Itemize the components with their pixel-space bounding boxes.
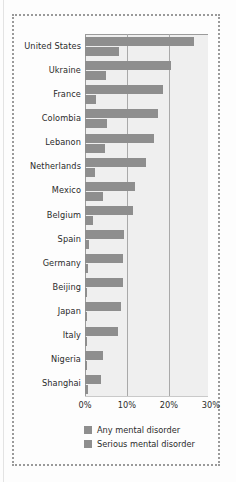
bar-any-mental-disorder bbox=[85, 230, 124, 239]
category-axis-labels: United StatesUkraineFranceColombiaLebano… bbox=[0, 34, 81, 396]
bar-any-mental-disorder bbox=[85, 134, 154, 143]
category-label: Japan bbox=[1, 306, 81, 316]
bar-row bbox=[85, 275, 208, 299]
bar-any-mental-disorder bbox=[85, 254, 123, 263]
bar-row bbox=[85, 372, 208, 396]
bar-any-mental-disorder bbox=[85, 109, 158, 118]
bar-row bbox=[85, 82, 208, 106]
bar-any-mental-disorder bbox=[85, 327, 118, 336]
bar-serious-mental-disorder bbox=[85, 71, 106, 80]
bar-row bbox=[85, 155, 208, 179]
category-label: Mexico bbox=[1, 185, 81, 195]
x-axis-line bbox=[85, 396, 208, 397]
bar-serious-mental-disorder bbox=[85, 361, 87, 370]
bar-row bbox=[85, 106, 208, 130]
bar-rows bbox=[85, 34, 208, 396]
legend-label: Serious mental disorder bbox=[97, 439, 195, 449]
bar-serious-mental-disorder bbox=[85, 240, 89, 249]
category-label: Beijing bbox=[1, 282, 81, 292]
x-tick-0%: 0% bbox=[79, 400, 92, 410]
category-label: United States bbox=[1, 41, 81, 51]
bar-row bbox=[85, 324, 208, 348]
category-label: Colombia bbox=[1, 113, 81, 123]
category-label: France bbox=[1, 89, 81, 99]
bar-serious-mental-disorder bbox=[85, 312, 87, 321]
bar-serious-mental-disorder bbox=[85, 264, 88, 273]
bar-any-mental-disorder bbox=[85, 302, 121, 311]
bar-row bbox=[85, 203, 208, 227]
legend-label: Any mental disorder bbox=[97, 425, 180, 435]
bar-row bbox=[85, 251, 208, 275]
x-tick-30%: 30% bbox=[202, 400, 220, 410]
category-label: Spain bbox=[1, 234, 81, 244]
legend-swatch-icon bbox=[84, 426, 92, 434]
category-label: Ukraine bbox=[1, 65, 81, 75]
bar-any-mental-disorder bbox=[85, 182, 135, 191]
bar-serious-mental-disorder bbox=[85, 192, 103, 201]
category-label: Lebanon bbox=[1, 137, 81, 147]
chart-legend: Any mental disorderSerious mental disord… bbox=[84, 424, 214, 452]
bar-any-mental-disorder bbox=[85, 375, 101, 384]
bar-any-mental-disorder bbox=[85, 61, 171, 70]
category-label: Netherlands bbox=[1, 161, 81, 171]
bar-serious-mental-disorder bbox=[85, 119, 107, 128]
bar-serious-mental-disorder bbox=[85, 216, 93, 225]
bar-row bbox=[85, 131, 208, 155]
bar-row bbox=[85, 348, 208, 372]
bar-serious-mental-disorder bbox=[85, 144, 105, 153]
category-label: Nigeria bbox=[1, 354, 81, 364]
bar-serious-mental-disorder bbox=[85, 95, 96, 104]
bar-serious-mental-disorder bbox=[85, 385, 88, 394]
bar-any-mental-disorder bbox=[85, 206, 133, 215]
category-label: Belgium bbox=[1, 210, 81, 220]
bar-serious-mental-disorder bbox=[85, 288, 87, 297]
bar-chart: United StatesUkraineFranceColombiaLebano… bbox=[0, 0, 236, 482]
bar-row bbox=[85, 179, 208, 203]
legend-swatch-icon bbox=[84, 440, 92, 448]
x-tick-20%: 20% bbox=[160, 400, 178, 410]
page: United StatesUkraineFranceColombiaLebano… bbox=[0, 0, 236, 482]
bar-serious-mental-disorder bbox=[85, 337, 87, 346]
category-label: Shanghai bbox=[1, 378, 81, 388]
legend-item: Serious mental disorder bbox=[84, 438, 214, 449]
bar-row bbox=[85, 227, 208, 251]
bar-any-mental-disorder bbox=[85, 278, 123, 287]
bar-row bbox=[85, 299, 208, 323]
bar-serious-mental-disorder bbox=[85, 47, 119, 56]
bar-serious-mental-disorder bbox=[85, 168, 95, 177]
legend-item: Any mental disorder bbox=[84, 424, 214, 435]
bar-any-mental-disorder bbox=[85, 158, 146, 167]
x-tick-10%: 10% bbox=[118, 400, 136, 410]
bar-any-mental-disorder bbox=[85, 351, 103, 360]
bar-row bbox=[85, 34, 208, 58]
bar-row bbox=[85, 58, 208, 82]
category-label: Germany bbox=[1, 258, 81, 268]
bar-any-mental-disorder bbox=[85, 85, 163, 94]
category-label: Italy bbox=[1, 330, 81, 340]
bar-any-mental-disorder bbox=[85, 37, 194, 46]
